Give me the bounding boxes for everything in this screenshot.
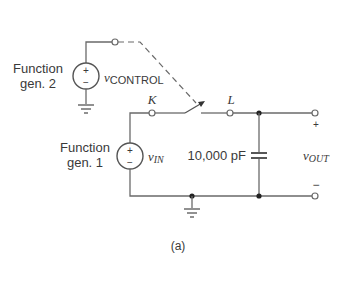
- node-l: [227, 110, 233, 116]
- svg-text:K: K: [147, 92, 158, 107]
- control-link: [118, 42, 196, 103]
- v-control-label: vCONTROL: [104, 70, 164, 86]
- fg2-label-2: gen. 2: [20, 76, 56, 91]
- figure-caption: (a): [171, 239, 186, 253]
- circuit-diagram: + − Function gen. 2 vCONTROL K L +: [0, 0, 347, 282]
- v-out-label: vOUT: [303, 148, 330, 164]
- svg-text:L: L: [226, 92, 234, 107]
- fg1-label: Function: [60, 140, 110, 155]
- svg-text:−: −: [127, 157, 133, 168]
- svg-text:−: −: [312, 178, 319, 192]
- junction-dot: [256, 193, 261, 198]
- output-terminal-plus: [312, 110, 318, 116]
- capacitor-value: 10,000 pF: [187, 148, 246, 163]
- svg-text:+: +: [313, 119, 319, 130]
- svg-text:−: −: [83, 77, 89, 88]
- v-in-label: vIN: [148, 149, 165, 165]
- fg1-label-2: gen. 1: [67, 155, 103, 170]
- ground-icon: [184, 209, 200, 217]
- function-generator-2: + − Function gen. 2 vCONTROL: [13, 39, 164, 113]
- control-terminal: [112, 39, 118, 45]
- output-terminal-minus: [312, 193, 318, 199]
- switch-icon: [185, 101, 205, 113]
- node-k: [149, 110, 155, 116]
- svg-text:+: +: [127, 145, 133, 156]
- capacitor-icon: [251, 153, 267, 158]
- main-circuit: K L + 10,000 pF + − Function gen. 1 vIN: [60, 92, 330, 217]
- fg2-label: Function: [13, 61, 63, 76]
- ground-icon: [78, 105, 94, 113]
- svg-text:+: +: [83, 65, 89, 76]
